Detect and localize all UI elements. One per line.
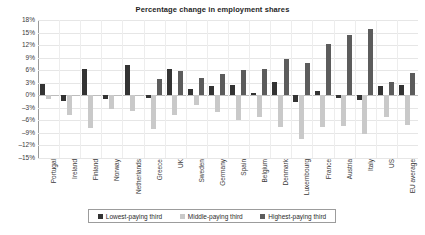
bar-finland-lowest-paying-third (82, 69, 87, 95)
legend-item-middle-paying-third[interactable]: Middle-paying third (180, 213, 243, 220)
x-axis-label-finland: Finland (93, 159, 100, 180)
bar-eu-average-lowest-paying-third (399, 85, 404, 95)
y-axis-tick-label: –9% (22, 130, 35, 137)
bar-france-highest-paying-third (326, 44, 331, 95)
x-axis-label-greece: Greece (157, 159, 164, 180)
chart-title: Percentage change in employment shares (0, 5, 425, 14)
y-axis-tick-label: 0% (26, 92, 35, 99)
y-axis-tick-label: –6% (22, 117, 35, 124)
bar-germany-middle-paying-third (215, 95, 220, 112)
y-axis-tick-label: 12% (22, 42, 35, 49)
x-axis-label-portugal: Portugal (51, 159, 58, 183)
bar-greece-middle-paying-third (151, 95, 156, 128)
x-axis-label-norway: Norway (114, 159, 121, 181)
bar-us-highest-paying-third (389, 82, 394, 95)
x-axis-label-sweden: Sweden (199, 159, 206, 183)
x-axis-label-eu-average: EU average (410, 159, 417, 193)
bar-us-lowest-paying-third (378, 86, 383, 95)
bar-austria-middle-paying-third (341, 95, 346, 126)
x-axis-label-france: France (326, 159, 333, 179)
y-axis-tick-label: 3% (26, 79, 35, 86)
bar-group (376, 20, 397, 158)
bar-greece-lowest-paying-third (146, 95, 151, 98)
bar-sweden-highest-paying-third (199, 78, 204, 96)
x-axis-label-us: US (389, 159, 396, 168)
bar-belgium-lowest-paying-third (251, 93, 256, 96)
x-axis-label-germany: Germany (220, 159, 227, 186)
bar-group (80, 20, 101, 158)
legend-label: Highest-paying third (268, 213, 326, 220)
bar-group (334, 20, 355, 158)
bar-ireland-lowest-paying-third (61, 95, 66, 101)
bar-netherlands-middle-paying-third (130, 95, 135, 111)
bar-germany-highest-paying-third (220, 74, 225, 95)
bar-group (312, 20, 333, 158)
bar-group (122, 20, 143, 158)
bar-us-middle-paying-third (384, 95, 389, 117)
legend-swatch-icon (98, 214, 103, 219)
bar-netherlands-lowest-paying-third (125, 65, 130, 95)
chart-legend: Lowest-paying thirdMiddle-paying thirdHi… (88, 209, 336, 223)
bar-eu-average-middle-paying-third (405, 95, 410, 125)
x-axis-label-luxembourg: Luxembourg (304, 159, 311, 195)
bar-france-middle-paying-third (320, 95, 325, 127)
x-axis-label-austria: Austria (347, 159, 354, 179)
bar-group (186, 20, 207, 158)
bar-france-lowest-paying-third (315, 91, 320, 95)
bar-denmark-highest-paying-third (284, 59, 289, 95)
x-axis-label-denmark: Denmark (283, 159, 290, 185)
bar-eu-average-highest-paying-third (410, 73, 415, 96)
legend-item-lowest-paying-third[interactable]: Lowest-paying third (98, 213, 162, 220)
bar-italy-middle-paying-third (362, 95, 367, 133)
bar-belgium-highest-paying-third (262, 69, 267, 96)
y-axis: 18%15%12%9%6%3%0%–3%–6%–9%–12%–15% (0, 20, 38, 158)
bar-uk-lowest-paying-third (167, 69, 172, 96)
bar-group (228, 20, 249, 158)
bar-group (207, 20, 228, 158)
bar-denmark-middle-paying-third (278, 95, 283, 127)
bar-group (397, 20, 418, 158)
x-axis-label-ireland: Ireland (72, 159, 79, 179)
bar-spain-lowest-paying-third (230, 85, 235, 95)
legend-item-highest-paying-third[interactable]: Highest-paying third (260, 213, 326, 220)
bar-group (59, 20, 80, 158)
bar-portugal-lowest-paying-third (40, 84, 45, 95)
bar-spain-highest-paying-third (241, 70, 246, 95)
x-axis-label-belgium: Belgium (262, 159, 269, 182)
x-axis-labels: PortugalIrelandFinlandNorwayNetherlandsG… (38, 159, 418, 211)
bar-group (38, 20, 59, 158)
plot-area (38, 20, 418, 158)
bar-uk-highest-paying-third (178, 71, 183, 95)
bar-norway-middle-paying-third (109, 95, 114, 109)
bar-luxembourg-middle-paying-third (299, 95, 304, 138)
bar-group (270, 20, 291, 158)
y-axis-tick-label: –3% (22, 105, 35, 112)
bar-group (249, 20, 270, 158)
x-axis-label-uk: UK (178, 159, 185, 168)
bar-portugal-middle-paying-third (46, 95, 51, 98)
employment-shares-chart: Percentage change in employment shares 1… (0, 0, 425, 235)
x-axis-label-netherlands: Netherlands (136, 159, 143, 194)
bar-group (291, 20, 312, 158)
bar-sweden-middle-paying-third (194, 95, 199, 105)
legend-label: Lowest-paying third (106, 213, 162, 220)
bar-luxembourg-lowest-paying-third (293, 95, 298, 102)
bar-uk-middle-paying-third (172, 95, 177, 114)
y-axis-tick-label: 15% (22, 29, 35, 36)
bar-group (165, 20, 186, 158)
bar-italy-lowest-paying-third (357, 95, 362, 100)
legend-swatch-icon (260, 214, 265, 219)
x-axis-label-italy: Italy (368, 159, 375, 171)
y-axis-tick-label: –15% (18, 155, 35, 162)
bar-belgium-middle-paying-third (257, 95, 262, 117)
legend-label: Middle-paying third (188, 213, 243, 220)
bar-group (144, 20, 165, 158)
bar-denmark-lowest-paying-third (272, 82, 277, 95)
bar-greece-highest-paying-third (157, 79, 162, 96)
bar-sweden-lowest-paying-third (188, 89, 193, 95)
bar-norway-lowest-paying-third (103, 95, 108, 98)
bar-austria-lowest-paying-third (336, 95, 341, 98)
y-axis-tick-label: 6% (26, 67, 35, 74)
bar-spain-middle-paying-third (236, 95, 241, 119)
bar-ireland-middle-paying-third (67, 95, 72, 114)
